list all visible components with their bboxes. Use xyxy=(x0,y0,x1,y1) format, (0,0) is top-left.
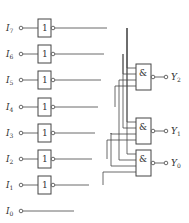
inverter-symbol-I7: 1 xyxy=(42,23,48,33)
input-terminal-I6 xyxy=(19,52,23,56)
nand-symbol-Y2: & xyxy=(139,68,147,78)
input-label-I2: I2 xyxy=(5,154,14,165)
input-terminal-I0 xyxy=(19,209,23,213)
inverter-bubble-I5 xyxy=(51,78,55,82)
output-terminal-Y2 xyxy=(164,75,168,79)
input-terminal-I4 xyxy=(19,105,23,109)
inverter-bubble-I4 xyxy=(51,105,55,109)
output-label-Y1: Y1 xyxy=(171,126,181,137)
input-label-I4: I4 xyxy=(5,102,14,113)
input-label-I1: I1 xyxy=(5,180,13,191)
inverter-bubble-I2 xyxy=(51,157,55,161)
nand-symbol-Y0: & xyxy=(139,154,147,164)
input-label-I6: I6 xyxy=(5,49,14,60)
inverter-bubble-I7 xyxy=(51,26,55,30)
inverter-symbol-I4: 1 xyxy=(42,102,48,112)
input-label-I5: I5 xyxy=(5,75,14,86)
output-terminal-Y1 xyxy=(164,129,168,133)
inverter-bubble-I1 xyxy=(51,183,55,187)
inverter-bubble-I3 xyxy=(51,131,55,135)
inverter-bubble-I6 xyxy=(51,52,55,56)
input-terminal-I2 xyxy=(19,157,23,161)
inverter-symbol-I3: 1 xyxy=(42,128,48,138)
inverter-symbol-I6: 1 xyxy=(42,49,48,59)
output-label-Y2: Y2 xyxy=(171,72,181,83)
inverter-symbol-I1: 1 xyxy=(42,180,48,190)
input-label-I0: I0 xyxy=(5,206,14,217)
nand-bubble-Y0 xyxy=(151,161,155,165)
input-terminal-I7 xyxy=(19,26,23,30)
input-label-I7: I7 xyxy=(5,23,14,34)
output-label-Y0: Y0 xyxy=(171,158,181,169)
inverter-symbol-I5: 1 xyxy=(42,75,48,85)
inverter-symbol-I2: 1 xyxy=(42,154,48,164)
nand-bubble-Y2 xyxy=(151,75,155,79)
input-label-I3: I3 xyxy=(5,128,14,139)
output-terminal-Y0 xyxy=(164,161,168,165)
nand-bubble-Y1 xyxy=(151,129,155,133)
encoder-circuit-diagram: I71I61I51I41I31I21I11I0&Y2&Y1&Y0 xyxy=(0,0,189,223)
input-terminal-I5 xyxy=(19,78,23,82)
input-terminal-I3 xyxy=(19,131,23,135)
nand-symbol-Y1: & xyxy=(139,122,147,132)
input-terminal-I1 xyxy=(19,183,23,187)
